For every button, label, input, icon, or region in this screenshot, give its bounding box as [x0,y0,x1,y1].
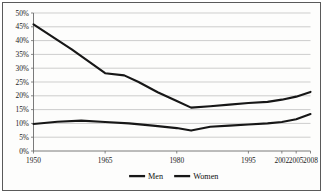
legend-label-women: Women [193,172,218,181]
y-axis-tick-label: 15% [15,105,29,114]
y-axis-tick-label: 30% [15,64,29,73]
legend-label-men: Men [148,172,163,181]
y-axis-tick-label: 50% [15,9,29,18]
chart-legend: MenWomen [129,172,218,181]
series-line-men [34,24,311,107]
x-axis-tick-label: 2005 [289,156,304,165]
gridlines [34,13,311,137]
x-axis-labels: 1950196519801995200220052008 [26,156,318,165]
x-axis-tick-label: 2002 [274,156,289,165]
y-axis-tick-label: 35% [15,50,29,59]
axis-tickmarks [31,13,311,154]
plot-area-wrapper: 50%45%40%35%30%25%20%15%10%5%0% 19501965… [0,0,323,195]
chart-container: 50%45%40%35%30%25%20%15%10%5%0% 19501965… [0,0,323,195]
line-chart-svg: 50%45%40%35%30%25%20%15%10%5%0% 19501965… [0,0,323,195]
x-axis-tick-label: 2008 [303,156,318,165]
x-axis-tick-label: 1950 [26,156,41,165]
x-axis-tick-label: 1980 [169,156,184,165]
series-line-women [34,114,311,131]
y-axis-tick-label: 40% [15,36,29,45]
y-axis-tick-label: 45% [15,22,29,31]
y-axis-tick-label: 20% [15,91,29,100]
y-axis-tick-label: 0% [19,147,29,156]
y-axis-tick-label: 5% [19,133,29,142]
x-axis-tick-label: 1965 [98,156,113,165]
y-axis-labels: 50%45%40%35%30%25%20%15%10%5%0% [15,9,29,156]
x-axis-tick-label: 1995 [241,156,256,165]
y-axis-tick-label: 25% [15,78,29,87]
y-axis-tick-label: 10% [15,119,29,128]
